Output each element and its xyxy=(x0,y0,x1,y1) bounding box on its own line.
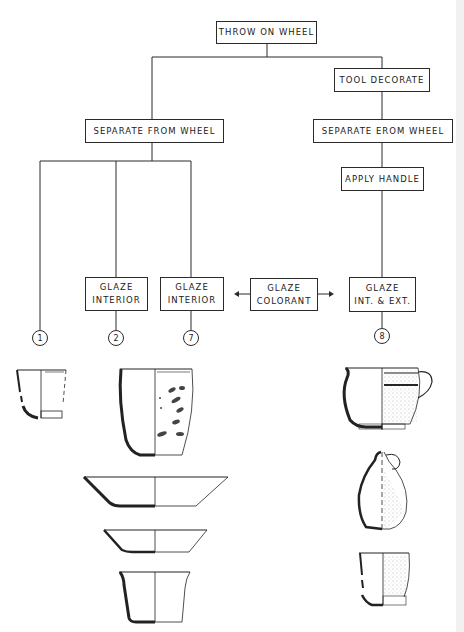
outcome-number: 2 xyxy=(113,334,118,343)
vessel-8-handled-cup xyxy=(344,368,432,430)
node-label: THROW ON WHEEL xyxy=(219,26,314,39)
node-apply-handle: APPLY HANDLE xyxy=(341,167,424,191)
node-throw-on-wheel: THROW ON WHEEL xyxy=(216,21,317,44)
node-label-line2: INTERIOR xyxy=(92,294,140,307)
node-label-line2: COLORANT xyxy=(257,295,312,308)
node-glaze-colorant: GLAZE COLORANT xyxy=(250,278,318,311)
pottery-process-diagram: THROW ON WHEEL TOOL DECORATE SEPARATE FR… xyxy=(0,0,464,632)
node-separate-from-wheel-right: SEPARATE EROM WHEEL xyxy=(313,119,453,143)
node-glaze-interior-2: GLAZE INTERIOR xyxy=(85,277,148,311)
node-tool-decorate: TOOL DECORATE xyxy=(334,68,430,92)
outcome-circle-2: 2 xyxy=(108,330,124,346)
node-label: SEPARATE EROM WHEEL xyxy=(322,125,444,138)
outcome-circle-7: 7 xyxy=(183,330,199,346)
vessel-8-jug xyxy=(359,452,407,529)
node-label: TOOL DECORATE xyxy=(340,74,425,87)
node-glaze-interior-7: GLAZE INTERIOR xyxy=(160,277,224,311)
outcome-number: 8 xyxy=(379,332,384,341)
page-edge xyxy=(456,0,464,632)
node-label-line1: GLAZE xyxy=(267,282,301,295)
node-label-line1: GLAZE xyxy=(366,282,400,295)
node-label-line2: INT. & EXT. xyxy=(354,295,411,308)
vessel-7-bowl xyxy=(84,477,228,506)
outcome-circle-1: 1 xyxy=(32,330,48,346)
node-label: APPLY HANDLE xyxy=(345,173,420,186)
node-label-line2: INTERIOR xyxy=(168,294,216,307)
outcome-number: 1 xyxy=(37,334,42,343)
vessel-8-footed-cup xyxy=(359,553,409,605)
node-glaze-int-ext: GLAZE INT. & EXT. xyxy=(349,277,416,312)
node-label: SEPARATE FROM WHEEL xyxy=(94,125,216,138)
connector-lines xyxy=(0,0,464,632)
outcome-circle-8: 8 xyxy=(374,328,390,344)
node-label-line1: GLAZE xyxy=(175,281,209,294)
vessel-1-cup xyxy=(17,370,66,418)
vessel-7-dish xyxy=(104,530,207,552)
node-separate-from-wheel-left: SEPARATE FROM WHEEL xyxy=(85,119,224,143)
vessel-7-beaker xyxy=(120,369,193,455)
outcome-number: 7 xyxy=(188,334,193,343)
node-label-line1: GLAZE xyxy=(100,281,134,294)
vessel-7-flared-cup xyxy=(119,572,190,622)
